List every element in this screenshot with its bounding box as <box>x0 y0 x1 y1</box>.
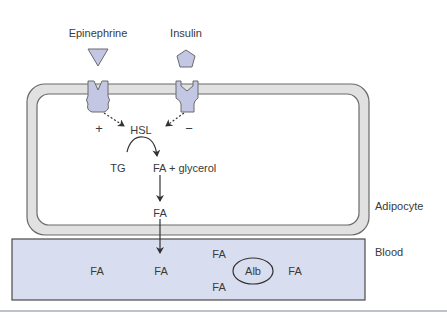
products-label: FA + glycerol <box>153 163 216 174</box>
epinephrine-ligand-icon <box>88 49 108 66</box>
albumin-label: Alb <box>245 266 261 277</box>
albumin-bound-fa-label: FA <box>212 282 225 293</box>
inhibition-sign: − <box>185 122 193 135</box>
insulin-label: Insulin <box>170 28 202 39</box>
adipocyte-membrane <box>27 84 369 235</box>
hsl-label: HSL <box>130 125 151 136</box>
epinephrine-label: Epinephrine <box>69 28 128 39</box>
blood-fa-label: FA <box>288 266 301 277</box>
lipolysis-diagram: Epinephrine Insulin + − HSL TG FA + glyc… <box>0 0 447 318</box>
insulin-ligand-icon <box>177 50 195 67</box>
blood-compartment <box>12 239 365 300</box>
adipocyte-label: Adipocyte <box>375 201 423 212</box>
intracellular-fa-label: FA <box>153 208 166 219</box>
diagram-canvas <box>0 0 447 318</box>
blood-fa-label: FA <box>90 266 103 277</box>
blood-label: Blood <box>375 247 403 258</box>
albumin-bound-fa-label: FA <box>212 249 225 260</box>
blood-fa-label: FA <box>154 266 167 277</box>
tg-label: TG <box>110 163 125 174</box>
stimulation-sign: + <box>95 122 103 135</box>
